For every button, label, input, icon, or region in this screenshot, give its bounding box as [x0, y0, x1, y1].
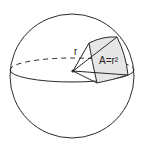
area-label: A=r² [99, 55, 119, 66]
radius-label: r [74, 46, 78, 57]
center-point [71, 69, 74, 72]
diagram-canvas: r A=r² [0, 0, 142, 143]
sphere-diagram: r A=r² [0, 0, 142, 143]
